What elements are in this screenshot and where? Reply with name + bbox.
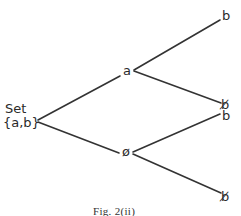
edge-root-to-not-a [38,122,119,153]
tree-edges [0,0,241,216]
node-not-a: ø [122,145,130,158]
edge-root-to-a [38,76,120,120]
edge-a-to-b [134,20,220,70]
leaf-not-a-not-b: b̸ [221,190,229,203]
root-label-set: Set [5,102,26,115]
figure-caption: Fig. 2(ii) [93,205,135,216]
leaf-a-b: b [222,9,230,22]
root-label-set-members: {a,b} [3,116,40,129]
node-a: a [123,64,131,77]
edge-not-a-to-b [133,114,220,152]
edge-a-to-not-b [134,71,221,103]
edge-not-a-to-not-b [133,154,221,193]
tree-diagram: Set {a,b} a ø b b̸ b b̸ Fig. 2(ii) [0,0,241,216]
leaf-not-a-b: b [222,109,230,122]
